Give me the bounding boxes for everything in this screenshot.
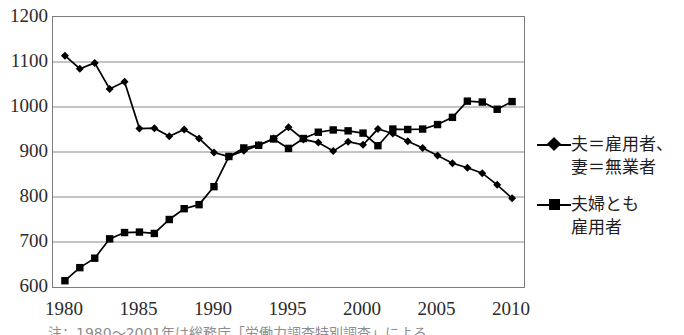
x-axis-tick-label: 1985: [108, 298, 168, 320]
plot-area: [52, 16, 525, 288]
data-point-square: [61, 277, 68, 284]
data-point-square: [404, 126, 411, 133]
data-point-square: [225, 153, 232, 160]
data-point-square: [151, 230, 158, 237]
data-point-diamond: [419, 144, 427, 152]
y-axis-tick-label: 900: [0, 140, 48, 162]
data-point-square: [493, 106, 500, 113]
data-point-square: [270, 135, 277, 142]
data-point-diamond: [165, 132, 173, 140]
y-axis-tick-label: 700: [0, 230, 48, 252]
data-point-square: [479, 98, 486, 105]
data-point-diamond: [404, 137, 412, 145]
data-point-square: [210, 183, 217, 190]
legend-label-1: 夫婦とも 雇用者: [571, 193, 639, 239]
data-point-diamond: [135, 125, 143, 133]
data-point-diamond: [314, 139, 322, 147]
data-point-square: [449, 114, 456, 121]
data-point-square: [419, 125, 426, 132]
data-point-diamond: [150, 124, 158, 132]
data-point-diamond: [434, 152, 442, 160]
legend-label-0-line-0: 夫＝雇用者、: [571, 133, 673, 156]
chart-figure: 600700800900100011001200 198019851990199…: [0, 0, 684, 335]
data-point-diamond: [180, 126, 188, 134]
data-point-square: [300, 135, 307, 142]
x-axis-tick-label: 2005: [407, 298, 467, 320]
legend-label-0-line-1: 妻＝無業者: [571, 156, 673, 179]
data-point-diamond: [463, 164, 471, 172]
data-point-square: [464, 97, 471, 104]
data-point-square: [508, 98, 515, 105]
legend-label-1-line-0: 夫婦とも: [571, 193, 639, 216]
data-point-diamond: [329, 147, 337, 155]
data-point-square: [121, 229, 128, 236]
legend-label-1-line-1: 雇用者: [571, 216, 639, 239]
data-point-square: [136, 228, 143, 235]
x-axis-tick-label: 1980: [34, 298, 94, 320]
data-point-square: [91, 255, 98, 262]
data-point-square: [344, 127, 351, 134]
data-point-diamond: [344, 138, 352, 146]
data-point-square: [180, 205, 187, 212]
data-point-square: [359, 129, 366, 136]
y-axis-tick-label: 1200: [0, 5, 48, 27]
data-point-square: [374, 142, 381, 149]
data-point-square: [330, 126, 337, 133]
data-point-square: [285, 145, 292, 152]
x-axis-tick-label: 1990: [183, 298, 243, 320]
x-axis-tick-label: 2000: [332, 298, 392, 320]
legend-entry-1: 夫婦とも 雇用者: [537, 193, 684, 239]
figure-note: 注：1980〜2001年は総務庁「労働力調査特別調査」による: [48, 322, 668, 335]
square-marker-icon: [537, 195, 571, 214]
legend-entry-0: 夫＝雇用者、 妻＝無業者: [537, 133, 684, 179]
data-point-square: [240, 144, 247, 151]
data-point-diamond: [91, 59, 99, 67]
data-point-square: [76, 264, 83, 271]
y-axis-tick-label: 600: [0, 275, 48, 297]
legend: 夫＝雇用者、 妻＝無業者 夫婦とも 雇用者: [537, 133, 684, 253]
y-axis-tick-label: 1100: [0, 50, 48, 72]
legend-label-0: 夫＝雇用者、 妻＝無業者: [571, 133, 673, 179]
data-point-diamond: [106, 85, 114, 93]
series-canvas: [53, 17, 524, 287]
data-point-square: [195, 201, 202, 208]
diamond-marker-icon: [537, 135, 571, 154]
x-axis-tick-label: 2010: [481, 298, 541, 320]
y-axis-tick-label: 1000: [0, 95, 48, 117]
data-point-square: [106, 235, 113, 242]
data-point-square: [389, 125, 396, 132]
data-point-diamond: [448, 159, 456, 167]
x-axis-tick-label: 1995: [258, 298, 318, 320]
data-point-square: [434, 121, 441, 128]
data-point-square: [255, 142, 262, 149]
data-point-diamond: [121, 78, 129, 86]
data-point-square: [166, 216, 173, 223]
data-point-square: [315, 129, 322, 136]
y-axis-tick-label: 800: [0, 185, 48, 207]
